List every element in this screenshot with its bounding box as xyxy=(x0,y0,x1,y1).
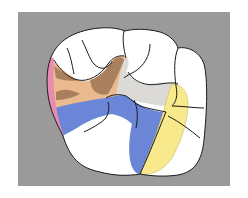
tooth-diagram xyxy=(0,0,248,198)
